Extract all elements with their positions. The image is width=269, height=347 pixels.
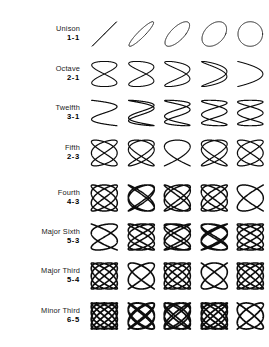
lissajous-curve: [123, 256, 160, 296]
interval-ratio: 2-1: [0, 74, 80, 83]
lissajous-cell: [196, 296, 233, 336]
lissajous-curve: [196, 256, 233, 296]
interval-ratio: 5-3: [0, 237, 80, 246]
lissajous-cell: [159, 93, 196, 133]
lissajous-cell: [123, 178, 160, 218]
lissajous-curve: [232, 54, 269, 94]
lissajous-curve: [86, 296, 123, 336]
curve-cells: [86, 217, 269, 257]
lissajous-cell: [86, 133, 123, 173]
lissajous-cell: [86, 178, 123, 218]
lissajous-curve: [123, 14, 160, 54]
lissajous-curve: [86, 54, 123, 94]
lissajous-cell: [196, 178, 233, 218]
interval-row-label: Fifth2-3: [0, 144, 86, 163]
interval-name: Fifth: [0, 144, 80, 153]
interval-row: Octave2-1: [0, 54, 269, 94]
lissajous-curve: [232, 217, 269, 257]
interval-name: Minor Third: [0, 307, 80, 316]
interval-row: Fourth4-3: [0, 178, 269, 218]
lissajous-curve: [232, 14, 269, 54]
lissajous-curve: [196, 54, 233, 94]
lissajous-curve: [196, 178, 233, 218]
interval-row: Minor Third6-5: [0, 296, 269, 336]
lissajous-curve: [159, 93, 196, 133]
lissajous-curve: [123, 296, 160, 336]
interval-ratio: 2-3: [0, 153, 80, 162]
lissajous-curve: [196, 93, 233, 133]
lissajous-cell: [86, 93, 123, 133]
lissajous-cell: [123, 54, 160, 94]
lissajous-cell: [159, 256, 196, 296]
lissajous-figure: Unison1-1Octave2-1Twelfth3-1Fifth2-3Four…: [0, 0, 269, 347]
lissajous-curve: [159, 14, 196, 54]
lissajous-cell: [232, 256, 269, 296]
lissajous-cell: [123, 14, 160, 54]
curve-cells: [86, 178, 269, 218]
interval-row-label: Octave2-1: [0, 65, 86, 84]
lissajous-cell: [196, 217, 233, 257]
lissajous-cell: [123, 217, 160, 257]
lissajous-grid: Unison1-1Octave2-1Twelfth3-1Fifth2-3Four…: [0, 0, 269, 347]
interval-row-label: Major Third5-4: [0, 267, 86, 286]
lissajous-cell: [232, 133, 269, 173]
lissajous-curve: [123, 133, 160, 173]
lissajous-cell: [86, 296, 123, 336]
lissajous-curve: [159, 296, 196, 336]
lissajous-cell: [232, 54, 269, 94]
interval-name: Twelfth: [0, 104, 80, 113]
interval-row-label: Major Sixth5-3: [0, 228, 86, 247]
interval-name: Fourth: [0, 189, 80, 198]
lissajous-cell: [86, 256, 123, 296]
lissajous-cell: [232, 14, 269, 54]
lissajous-curve: [123, 93, 160, 133]
lissajous-cell: [196, 256, 233, 296]
interval-name: Unison: [0, 25, 80, 34]
curve-cells: [86, 296, 269, 336]
lissajous-curve: [232, 178, 269, 218]
curve-cells: [86, 14, 269, 54]
curve-cells: [86, 93, 269, 133]
lissajous-curve: [86, 217, 123, 257]
interval-row: Fifth2-3: [0, 133, 269, 173]
lissajous-curve: [159, 54, 196, 94]
interval-row: Unison1-1: [0, 14, 269, 54]
lissajous-cell: [86, 14, 123, 54]
lissajous-cell: [123, 93, 160, 133]
lissajous-curve: [86, 178, 123, 218]
lissajous-cell: [232, 178, 269, 218]
curve-cells: [86, 256, 269, 296]
lissajous-curve: [196, 14, 233, 54]
lissajous-cell: [159, 178, 196, 218]
interval-ratio: 1-1: [0, 34, 80, 43]
lissajous-cell: [123, 296, 160, 336]
lissajous-curve: [86, 93, 123, 133]
lissajous-curve: [86, 133, 123, 173]
lissajous-curve: [159, 133, 196, 173]
interval-name: Major Sixth: [0, 228, 80, 237]
lissajous-cell: [196, 14, 233, 54]
interval-row-label: Unison1-1: [0, 25, 86, 44]
lissajous-curve: [196, 133, 233, 173]
interval-ratio: 3-1: [0, 113, 80, 122]
interval-ratio: 4-3: [0, 198, 80, 207]
lissajous-curve: [196, 296, 233, 336]
interval-ratio: 5-4: [0, 276, 80, 285]
lissajous-curve: [86, 256, 123, 296]
curve-cells: [86, 133, 269, 173]
lissajous-curve: [86, 14, 123, 54]
lissajous-curve: [232, 93, 269, 133]
lissajous-cell: [159, 296, 196, 336]
lissajous-curve: [232, 133, 269, 173]
interval-row-label: Twelfth3-1: [0, 104, 86, 123]
lissajous-cell: [159, 133, 196, 173]
lissajous-curve: [232, 296, 269, 336]
lissajous-curve: [159, 217, 196, 257]
lissajous-curve: [232, 256, 269, 296]
lissajous-cell: [159, 14, 196, 54]
lissajous-cell: [232, 296, 269, 336]
lissajous-cell: [86, 54, 123, 94]
interval-ratio: 6-5: [0, 316, 80, 325]
lissajous-curve: [123, 178, 160, 218]
interval-row: Major Third5-4: [0, 256, 269, 296]
